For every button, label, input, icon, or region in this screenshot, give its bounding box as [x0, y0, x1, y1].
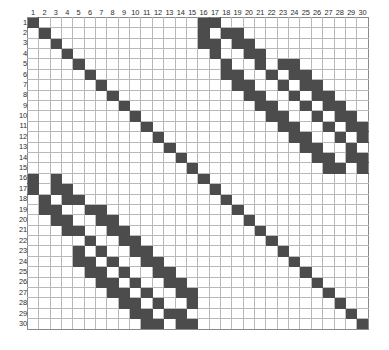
matrix-cell-empty	[266, 215, 277, 225]
matrix-cell-empty	[243, 152, 254, 162]
matrix-cell-empty	[130, 256, 141, 266]
matrix-cell-empty	[164, 38, 175, 48]
matrix-cell-empty	[186, 17, 197, 27]
matrix-cell-empty	[39, 298, 50, 308]
matrix-cell-empty	[50, 225, 61, 235]
matrix-cell-empty	[50, 101, 61, 111]
matrix-cell-empty	[73, 215, 84, 225]
matrix-row-label: 15	[16, 163, 27, 173]
matrix-cell-empty	[39, 215, 50, 225]
matrix-cell-filled	[311, 80, 322, 90]
matrix-cell-empty	[186, 152, 197, 162]
matrix-cell-empty	[266, 142, 277, 152]
matrix-cell-empty	[323, 236, 334, 246]
matrix-cell-empty	[334, 194, 345, 204]
matrix-cell-empty	[130, 121, 141, 131]
matrix-cell-empty	[198, 288, 209, 298]
matrix-cell-empty	[61, 142, 72, 152]
matrix-row: 2	[16, 28, 368, 38]
matrix-cell-empty	[357, 267, 368, 277]
matrix-cell-empty	[118, 59, 129, 69]
matrix-cell-empty	[289, 267, 300, 277]
matrix-cell-empty	[345, 256, 356, 266]
matrix-cell-empty	[96, 142, 107, 152]
matrix-cell-empty	[141, 142, 152, 152]
matrix-row: 30	[16, 319, 368, 329]
matrix-cell-empty	[266, 38, 277, 48]
matrix-cell-empty	[84, 308, 95, 318]
matrix-cell-empty	[141, 277, 152, 287]
matrix-cell-empty	[232, 184, 243, 194]
matrix-cell-empty	[345, 69, 356, 79]
matrix-cell-empty	[107, 204, 118, 214]
matrix-cell-filled	[27, 17, 38, 27]
matrix-cell-empty	[107, 59, 118, 69]
matrix-cell-empty	[186, 215, 197, 225]
matrix-cell-empty	[130, 204, 141, 214]
matrix-cell-empty	[73, 69, 84, 79]
matrix-column-label: 15	[186, 7, 197, 17]
matrix-cell-empty	[289, 319, 300, 329]
matrix-cell-empty	[300, 163, 311, 173]
matrix-cell-filled	[220, 69, 231, 79]
matrix-cell-empty	[277, 163, 288, 173]
matrix-column-label: 11	[141, 7, 152, 17]
matrix-cell-empty	[334, 184, 345, 194]
matrix-row: 10	[16, 111, 368, 121]
matrix-cell-filled	[277, 246, 288, 256]
matrix-cell-empty	[61, 17, 72, 27]
matrix-cell-empty	[266, 246, 277, 256]
matrix-cell-empty	[84, 184, 95, 194]
matrix-cell-empty	[39, 132, 50, 142]
matrix-cell-filled	[107, 90, 118, 100]
matrix-cell-empty	[220, 38, 231, 48]
matrix-row-label: 9	[16, 101, 27, 111]
matrix-row: 14	[16, 152, 368, 162]
matrix-cell-empty	[300, 256, 311, 266]
matrix-cell-empty	[96, 121, 107, 131]
matrix-cell-empty	[27, 142, 38, 152]
matrix-cell-empty	[175, 49, 186, 59]
matrix-cell-empty	[209, 215, 220, 225]
matrix-cell-filled	[175, 152, 186, 162]
matrix-cell-empty	[311, 308, 322, 318]
matrix-cell-filled	[118, 101, 129, 111]
matrix-cell-empty	[164, 49, 175, 59]
matrix-cell-empty	[334, 288, 345, 298]
matrix-cell-empty	[84, 246, 95, 256]
matrix-cell-empty	[209, 163, 220, 173]
matrix-cell-empty	[232, 163, 243, 173]
matrix-cell-filled	[141, 319, 152, 329]
matrix-cell-filled	[255, 101, 266, 111]
matrix-column-label: 21	[255, 7, 266, 17]
matrix-cell-empty	[141, 69, 152, 79]
matrix-cell-filled	[152, 298, 163, 308]
matrix-cell-filled	[289, 256, 300, 266]
matrix-cell-empty	[357, 298, 368, 308]
matrix-cell-empty	[39, 142, 50, 152]
matrix-cell-filled	[73, 246, 84, 256]
matrix-row-label: 20	[16, 215, 27, 225]
matrix-cell-empty	[84, 38, 95, 48]
matrix-cell-empty	[50, 256, 61, 266]
matrix-cell-filled	[311, 111, 322, 121]
matrix-cell-empty	[27, 236, 38, 246]
matrix-cell-filled	[164, 277, 175, 287]
matrix-cell-empty	[50, 17, 61, 27]
matrix-cell-empty	[266, 308, 277, 318]
matrix-cell-empty	[50, 236, 61, 246]
matrix-cell-empty	[84, 17, 95, 27]
matrix-row: 9	[16, 101, 368, 111]
matrix-cell-empty	[198, 308, 209, 318]
matrix-cell-empty	[266, 28, 277, 38]
matrix-cell-empty	[152, 38, 163, 48]
matrix-cell-filled	[323, 288, 334, 298]
matrix-column-label: 28	[334, 7, 345, 17]
matrix-cell-empty	[277, 101, 288, 111]
matrix-cell-empty	[198, 204, 209, 214]
matrix-row-label: 29	[16, 308, 27, 318]
matrix-cell-empty	[96, 319, 107, 329]
matrix-cell-empty	[220, 225, 231, 235]
matrix-cell-empty	[220, 101, 231, 111]
matrix-cell-empty	[243, 111, 254, 121]
